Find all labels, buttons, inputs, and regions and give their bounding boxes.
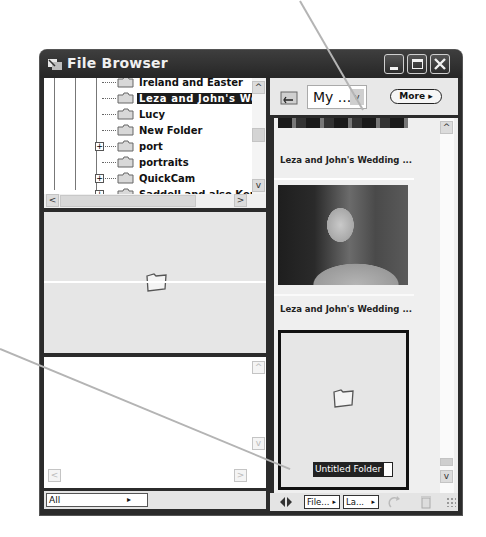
minimize-icon [390,67,398,70]
folder-tree-panel: Ireland and Easter Leza and John's We Lu… [44,78,266,208]
tree-guide-line [54,78,55,190]
dropdown-arrow-icon: ▸ [371,496,375,508]
folder-icon [117,78,134,88]
scroll-thumb[interactable] [252,128,265,142]
folder-icon [117,124,134,136]
scroll-down-button[interactable]: v [440,470,453,483]
tree-horizontal-scrollbar[interactable]: < > [44,194,266,208]
preview-panel [44,212,266,353]
scroll-left-button[interactable]: < [48,469,61,482]
resize-grip-icon[interactable] [446,497,456,507]
scroll-down-button[interactable]: v [252,437,265,450]
metadata-horizontal-scrollbar[interactable]: < > [44,469,266,483]
more-arrow-icon: ▸ [428,91,433,101]
thumbnail-image[interactable] [278,185,408,285]
thumbnail-caption[interactable]: Leza and John's Wedding ... [280,155,410,165]
scroll-left-button[interactable]: < [46,194,59,207]
scroll-down-button[interactable]: v [252,179,265,192]
rename-text: Untitled Folder [313,462,383,477]
text-cursor [383,462,393,477]
dropdown-arrow-icon: ▸ [127,494,131,506]
folder-icon [117,140,134,152]
thumbnail-list: Leza and John's Wedding ... Leza and Joh… [274,118,458,493]
window-title: File Browser [67,55,168,71]
tree-vertical-scrollbar[interactable]: ^ v [252,78,266,194]
up-folder-icon[interactable] [280,91,298,105]
sort-label: File... [307,497,329,507]
tree-item[interactable]: New Folder [102,122,204,138]
tree-item-label: QuickCam [137,173,197,184]
scroll-right-button[interactable]: > [234,194,247,207]
scroll-thumb[interactable] [440,458,453,466]
file-browser-window: File Browser Ireland and Easter [40,50,462,515]
folder-icon [332,388,356,408]
sort-by-button[interactable]: File... ▸ [304,495,340,509]
thumbnail-selected-folder[interactable]: Untitled Folder [278,330,409,490]
maximize-button[interactable] [407,54,427,74]
dropdown-arrow-icon: ▸ [332,496,336,508]
view-label: La... [346,497,364,507]
metadata-panel: ^ v < > [44,357,266,488]
folder-icon [117,172,134,184]
location-dropdown[interactable]: My ... v [307,85,367,109]
scroll-up-button[interactable]: ^ [440,121,453,134]
trash-icon[interactable] [420,495,432,509]
left-status-bar: All ▸ [44,491,266,509]
scanline-artifact [44,281,266,283]
more-button[interactable]: More ▸ [390,89,442,104]
tree-item-label: Leza and John's We [137,93,260,104]
tree-item-selected[interactable]: Leza and John's We [102,90,260,106]
thumbnail-caption[interactable]: Leza and John's Wedding ... [280,304,410,314]
folder-icon [117,92,134,104]
minimize-button[interactable] [384,54,404,74]
thumbnail-image[interactable] [278,118,408,128]
close-button[interactable] [430,54,450,74]
tree-item[interactable]: + QuickCam [102,170,197,186]
tree-item[interactable]: Ireland and Easter [102,78,245,90]
title-bar[interactable]: File Browser [40,50,462,78]
tree-item[interactable]: + port [102,138,165,154]
rotate-icon[interactable] [388,495,402,509]
folder-icon [117,108,134,120]
expand-icon[interactable]: + [95,142,104,151]
thumbnail-separator [274,178,414,180]
folder-icon [117,156,134,168]
scroll-up-button[interactable]: ^ [252,361,265,374]
close-icon [431,55,449,73]
tree-item-label: portraits [137,157,191,168]
scroll-right-button[interactable]: > [234,469,247,482]
tree-item[interactable]: Lucy [102,106,167,122]
maximize-icon [412,59,423,69]
view-as-button[interactable]: La... ▸ [343,495,379,509]
tree-guide-line [75,78,76,190]
tree-item-label: port [137,141,165,152]
scroll-up-button[interactable]: ^ [252,81,265,94]
window-client-area: Ireland and Easter Leza and John's We Lu… [44,78,458,511]
thumbnail-vertical-scrollbar[interactable]: ^ v [440,118,454,493]
file-browser-app-icon [47,57,63,71]
location-value: My ... [313,89,351,105]
filter-value: All [49,495,60,505]
tree-item-label: Lucy [137,109,167,120]
more-label: More [399,91,425,101]
toggle-panes-icon[interactable] [280,497,292,507]
expand-icon[interactable]: + [95,174,104,183]
tree-item-label: Ireland and Easter [137,78,245,88]
tree-item-label: New Folder [137,125,204,136]
scroll-thumb[interactable] [60,195,196,207]
rename-field[interactable]: Untitled Folder [313,462,393,477]
tree-item[interactable]: portraits [102,154,191,170]
right-status-bar: File... ▸ La... ▸ [270,493,458,511]
filter-dropdown[interactable]: All ▸ [46,493,148,507]
thumbnail-separator [274,294,414,296]
